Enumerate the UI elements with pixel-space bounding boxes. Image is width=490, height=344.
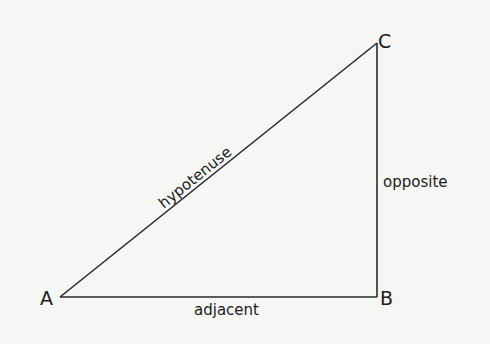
triangle-shape xyxy=(0,0,490,344)
vertex-b-label: B xyxy=(380,287,393,309)
adjacent-label: adjacent xyxy=(194,301,259,319)
triangle-diagram: A B C opposite adjacent hypotenuse xyxy=(0,0,490,344)
opposite-label: opposite xyxy=(383,173,448,191)
vertex-c-label: C xyxy=(378,30,391,52)
vertex-a-label: A xyxy=(40,287,53,309)
